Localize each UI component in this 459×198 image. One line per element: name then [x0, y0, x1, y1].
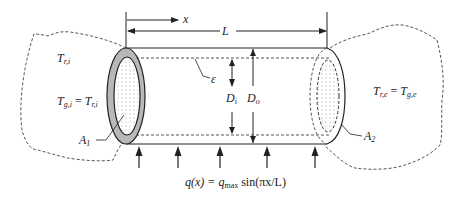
Do-arrow-down: [250, 136, 256, 143]
Di-label: Di: [226, 92, 237, 106]
Do-label: Do: [247, 92, 260, 106]
Di-arrow-up: [229, 59, 235, 66]
A2-label: A2: [364, 130, 375, 144]
heat-flux-arrows: [136, 146, 319, 168]
tube-diagram: x L ε Di Do Tr,i Tg,i = Tr,i Tr,e = Tg,e…: [0, 0, 459, 198]
epsilon-label: ε: [211, 73, 216, 85]
Tre-equation: Tr,e = Tg,e: [373, 85, 417, 99]
Di-arrow-down: [229, 127, 235, 134]
Tri-label: Tr,i: [57, 52, 70, 66]
right-opening-A2: [317, 60, 339, 132]
x-label: x: [183, 13, 188, 25]
heat-flux-equation: q(x) = qmax sin(πx/L): [185, 176, 286, 190]
L-label: L: [222, 25, 229, 37]
Do-arrow-up: [250, 49, 256, 56]
epsilon-leader: [195, 59, 210, 78]
Tgi-equation: Tg,i = Tr,i: [57, 95, 98, 109]
A1-label: A1: [79, 134, 90, 148]
A2-leader: [341, 124, 362, 136]
